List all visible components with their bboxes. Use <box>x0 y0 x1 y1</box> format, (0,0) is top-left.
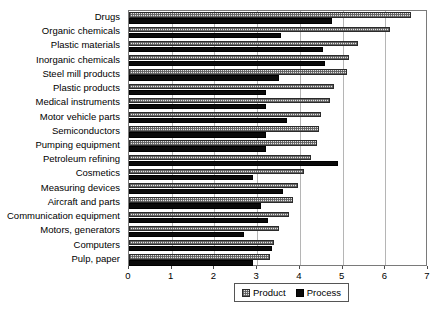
bar-row <box>129 111 426 125</box>
legend-label: Product <box>253 287 286 298</box>
bar-row <box>129 224 426 238</box>
x-tick-label: 3 <box>253 269 258 282</box>
bar-process <box>129 104 266 109</box>
x-axis: 01234567 <box>128 266 427 282</box>
bar-process <box>129 90 266 95</box>
category-label: Drugs <box>95 10 120 24</box>
bar-product <box>129 84 334 89</box>
bar-process <box>129 246 272 251</box>
bar-product <box>129 169 304 174</box>
x-tick-label: 0 <box>125 269 130 282</box>
bar-product <box>129 112 321 117</box>
category-label: Plastic materials <box>51 38 120 52</box>
bar-product <box>129 69 347 74</box>
bar-product <box>129 226 279 231</box>
bar-row <box>129 125 426 139</box>
bar-row <box>129 54 426 68</box>
x-tick-label: 1 <box>168 269 173 282</box>
category-label: Semiconductors <box>52 124 120 138</box>
category-axis-labels: DrugsOrganic chemicalsPlastic materialsI… <box>0 10 124 266</box>
bar-row <box>129 25 426 39</box>
bar-process <box>129 61 325 66</box>
bar-process <box>129 232 244 237</box>
bar-row <box>129 96 426 110</box>
legend-label: Process <box>307 287 341 298</box>
bar-product <box>129 240 274 245</box>
bar-process <box>129 132 266 137</box>
bar-product <box>129 155 311 160</box>
bar-product <box>129 41 358 46</box>
bar-product <box>129 55 349 60</box>
bar-process <box>129 75 279 80</box>
legend-swatch-process <box>296 289 304 297</box>
category-label: Steel mill products <box>42 67 120 81</box>
bar-row <box>129 167 426 181</box>
bar-product <box>129 212 289 217</box>
category-label: Medical instruments <box>36 95 120 109</box>
bar-row <box>129 239 426 253</box>
bar-process <box>129 118 287 123</box>
x-tick-label: 2 <box>211 269 216 282</box>
bar-row <box>129 82 426 96</box>
x-tick-label: 6 <box>382 269 387 282</box>
x-tick-label: 5 <box>339 269 344 282</box>
x-tick-label: 4 <box>296 269 301 282</box>
category-label: Pumping equipment <box>36 138 121 152</box>
bar-process <box>129 189 283 194</box>
bar-row <box>129 139 426 153</box>
bar-product <box>129 98 330 103</box>
bar-product <box>129 27 390 32</box>
category-label: Plastic products <box>53 81 120 95</box>
bar-product <box>129 197 293 202</box>
category-label: Communication equipment <box>7 209 120 223</box>
chart-legend: ProductProcess <box>234 283 349 302</box>
bar-row <box>129 182 426 196</box>
category-label: Petroleum refining <box>43 152 120 166</box>
category-label: Organic chemicals <box>42 24 120 38</box>
bar-product <box>129 254 270 259</box>
bar-process <box>129 18 332 23</box>
bar-process <box>129 175 253 180</box>
bar-product <box>129 126 319 131</box>
bar-product <box>129 12 411 17</box>
bar-chart: DrugsOrganic chemicalsPlastic materialsI… <box>0 0 439 314</box>
bar-process <box>129 47 323 52</box>
bar-process <box>129 260 253 265</box>
legend-swatch-product <box>242 289 250 297</box>
x-tick-label: 7 <box>424 269 429 282</box>
bar-row <box>129 39 426 53</box>
bar-process <box>129 146 266 151</box>
bar-row <box>129 153 426 167</box>
bar-product <box>129 140 317 145</box>
bar-product <box>129 183 298 188</box>
bar-row <box>129 210 426 224</box>
category-label: Pulp, paper <box>71 252 120 266</box>
legend-item[interactable]: Product <box>242 287 286 298</box>
bar-process <box>129 161 338 166</box>
bar-row <box>129 68 426 82</box>
category-label: Motor vehicle parts <box>40 110 120 124</box>
bar-process <box>129 203 261 208</box>
legend-item[interactable]: Process <box>296 287 341 298</box>
plot-area <box>128 10 427 266</box>
category-label: Computers <box>74 238 120 252</box>
bar-row <box>129 196 426 210</box>
bar-process <box>129 218 268 223</box>
bar-row <box>129 11 426 25</box>
bar-process <box>129 33 281 38</box>
category-label: Cosmetics <box>76 166 120 180</box>
category-label: Measuring devices <box>41 181 120 195</box>
category-label: Motors, generators <box>40 223 120 237</box>
bar-row <box>129 253 426 267</box>
category-label: Aircraft and parts <box>48 195 120 209</box>
category-label: Inorganic chemicals <box>36 53 120 67</box>
